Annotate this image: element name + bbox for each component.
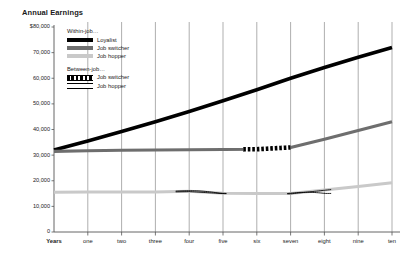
legend-item-job-hopper-between[interactable]: Job hopper — [67, 83, 129, 90]
legend-label-loyalist: Loyalist — [97, 37, 117, 44]
legend-group-heading-within-job: Within-job… — [67, 28, 129, 34]
legend-swatch-job-switcher-between — [67, 75, 93, 81]
legend-label-job-hopper-between: Job hopper — [97, 83, 126, 90]
chart-plot-area — [0, 0, 414, 261]
chart-canvas: Annual Earnings 010,00020,00030,00040,00… — [0, 0, 414, 261]
y-axis-tick-label: 30,000 — [2, 152, 50, 158]
y-axis-tick-label: 50,000 — [2, 100, 50, 106]
x-axis-tick-marks — [88, 232, 392, 236]
chart-legend: Within-job… Loyalist Job switcher Job ho… — [67, 28, 129, 91]
legend-swatch-job-hopper-within — [67, 54, 93, 58]
legend-item-job-hopper-within[interactable]: Job hopper — [67, 53, 129, 60]
legend-item-job-switcher-between[interactable]: Job switcher — [67, 74, 129, 81]
legend-item-loyalist[interactable]: Loyalist — [67, 37, 129, 44]
x-axis-tick-label: ten — [366, 238, 414, 244]
legend-item-job-switcher-within[interactable]: Job switcher — [67, 45, 129, 52]
legend-label-job-switcher-between: Job switcher — [97, 74, 129, 81]
y-axis-tick-label: 40,000 — [2, 126, 50, 132]
legend-swatch-loyalist — [67, 38, 93, 42]
y-axis-tick-label: 20,000 — [2, 177, 50, 183]
legend-swatch-job-switcher-within — [67, 46, 93, 50]
y-axis-tick-label: 60,000 — [2, 75, 50, 81]
legend-group-heading-between-job: Between-job… — [67, 66, 129, 72]
y-axis-tick-label: 10,000 — [2, 203, 50, 209]
y-axis-tick-label: 70,000 — [2, 49, 50, 55]
legend-label-job-switcher-within: Job switcher — [97, 45, 129, 52]
y-axis-tick-label: 0 — [2, 228, 50, 234]
legend-label-job-hopper-within: Job hopper — [97, 53, 126, 60]
legend-swatch-job-hopper-between — [67, 83, 93, 88]
y-axis-tick-label: $80,000 — [2, 23, 50, 29]
